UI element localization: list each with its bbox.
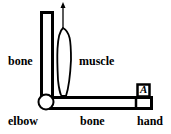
load-label: A — [140, 84, 147, 95]
hand-label: hand — [137, 115, 163, 127]
lower-bone-label: bone — [80, 115, 105, 127]
elbow-joint — [39, 95, 54, 110]
upper-bone-label: bone — [8, 55, 33, 67]
muscle-label: muscle — [79, 55, 114, 67]
elbow-label: elbow — [8, 115, 38, 127]
muscle-shape — [57, 28, 71, 96]
force-arrow-head — [61, 2, 66, 8]
upper-bone-shape — [42, 13, 53, 101]
